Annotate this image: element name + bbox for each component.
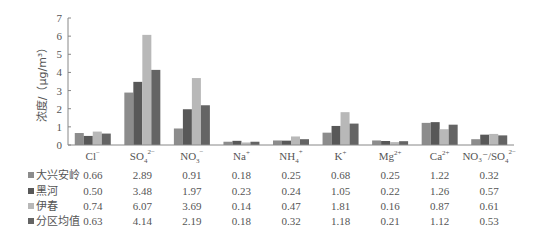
table-cell: 3.48 [133, 185, 153, 197]
bar-3-3 [192, 78, 201, 145]
bar-2-9 [480, 135, 489, 145]
bar-4-9 [498, 135, 507, 145]
table-cell: 0.14 [232, 200, 252, 212]
table-cell: 2.19 [182, 215, 202, 227]
bar-2-4 [232, 141, 241, 145]
bar-2-2 [133, 82, 142, 145]
legend-label: 分区均值 [36, 215, 80, 228]
bar-chart: 01234567 Cl−SO42−NO3−Na+NH4+K+Mg2+Ca2+NO… [0, 0, 539, 232]
x-tick-label: NO₃⁻/SO42− [462, 148, 516, 165]
table-cell: 0.68 [331, 169, 351, 181]
bar-4-7 [399, 141, 408, 145]
table-cell: 1.18 [331, 215, 351, 227]
x-tick-label: Ca2+ [430, 149, 450, 162]
y-tick-label: 2 [57, 103, 63, 115]
legend-label: 黑河 [36, 185, 58, 198]
bar-3-9 [489, 134, 498, 145]
bar-1-9 [471, 139, 480, 145]
table-cell: 0.21 [380, 215, 399, 227]
x-tick-label: K+ [335, 149, 347, 162]
legend-swatch [28, 188, 34, 194]
x-tick-label: SO42− [130, 148, 155, 165]
table-cell: 1.05 [331, 185, 351, 197]
table-cell: 0.50 [83, 185, 103, 197]
table-cell: 0.57 [480, 185, 500, 197]
table-cell: 0.74 [83, 200, 103, 212]
table-cell: 0.47 [281, 200, 301, 212]
y-tick-label: 3 [57, 85, 63, 97]
bar-4-5 [300, 139, 309, 145]
bar-3-2 [142, 35, 151, 145]
y-axis: 01234567 [57, 12, 72, 151]
table-cell: 0.32 [480, 169, 499, 181]
y-tick-label: 0 [57, 139, 63, 151]
table-cell: 0.87 [430, 200, 450, 212]
bar-1-3 [174, 128, 183, 145]
bar-2-8 [431, 122, 440, 145]
bar-1-8 [422, 123, 431, 145]
table-cell: 0.32 [281, 215, 300, 227]
legend-swatch [28, 218, 34, 224]
table-cell: 1.97 [182, 185, 202, 197]
table-cell: 0.25 [380, 169, 400, 181]
table-cell: 0.63 [83, 215, 103, 227]
table-cell: 1.81 [331, 200, 350, 212]
x-tick-label: Na+ [233, 149, 250, 162]
table-cell: 1.12 [430, 215, 449, 227]
bars [75, 35, 507, 145]
x-tick-label: NO3− [180, 148, 203, 165]
table-cell: 0.61 [480, 200, 499, 212]
y-axis-title: 浓度/（μg/m³） [35, 42, 49, 123]
table-cell: 0.53 [480, 215, 500, 227]
y-tick-label: 1 [57, 121, 63, 133]
y-tick-label: 4 [57, 66, 63, 78]
bar-4-6 [350, 124, 359, 145]
table-cell: 0.18 [232, 169, 252, 181]
table-cell: 0.18 [232, 215, 252, 227]
table-cell: 0.23 [232, 185, 252, 197]
bar-2-5 [282, 141, 291, 145]
bar-2-6 [332, 126, 341, 145]
x-tick-label: Mg2+ [379, 149, 402, 162]
table-cell: 4.14 [133, 215, 153, 227]
bar-4-3 [201, 105, 210, 145]
table-cell: 3.69 [182, 200, 202, 212]
x-tick-label: NH4+ [279, 148, 302, 165]
table-cell: 0.24 [281, 185, 301, 197]
legend-swatch [28, 203, 34, 209]
bar-3-1 [93, 132, 102, 145]
table-cell: 6.07 [133, 200, 153, 212]
table-cell: 0.16 [380, 200, 400, 212]
bar-2-7 [381, 141, 390, 145]
bar-1-1 [75, 133, 84, 145]
category-labels: Cl−SO42−NO3−Na+NH4+K+Mg2+Ca2+NO₃⁻/SO42− [86, 148, 516, 165]
bar-4-1 [102, 134, 111, 145]
y-tick-label: 7 [57, 12, 63, 24]
table-cell: 2.89 [133, 169, 153, 181]
table-cell: 0.66 [83, 169, 103, 181]
legend-swatch [28, 172, 34, 178]
bar-2-3 [183, 109, 192, 145]
y-tick-label: 6 [57, 30, 63, 42]
table-cell: 1.22 [430, 169, 449, 181]
legend-label: 大兴安岭 [36, 168, 80, 182]
y-tick-label: 5 [57, 48, 63, 60]
table-cell: 0.22 [380, 185, 399, 197]
bar-3-8 [440, 129, 449, 145]
table-cell: 0.91 [182, 169, 201, 181]
bar-4-8 [449, 125, 458, 145]
bar-1-7 [372, 140, 381, 145]
bar-1-2 [124, 93, 133, 145]
bar-1-5 [273, 140, 282, 145]
bar-3-5 [291, 136, 300, 145]
x-tick-label: Cl− [86, 149, 100, 162]
table-cell: 0.25 [281, 169, 301, 181]
data-table: 大兴安岭0.662.890.910.180.250.680.251.220.32… [28, 168, 499, 228]
bar-2-1 [84, 136, 93, 145]
table-cell: 1.26 [430, 185, 450, 197]
bar-4-2 [151, 70, 160, 145]
bar-1-6 [323, 133, 332, 145]
legend-label: 伊春 [36, 200, 58, 213]
bar-3-6 [341, 112, 350, 145]
